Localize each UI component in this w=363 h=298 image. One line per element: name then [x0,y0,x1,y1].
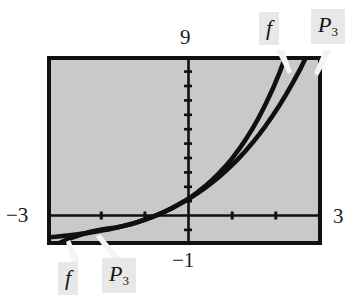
y-axis-max-label: 9 [180,25,191,50]
curve-label-f-bottom: f [58,262,78,295]
curve-label-f-top: f [259,12,279,45]
curve-label-f-bottom-text: f [65,265,71,290]
y-axis-min-label: −3 [6,203,28,228]
x-axis-max-label: 3 [333,204,344,229]
curve-label-p3-top-base: P [318,12,331,37]
curve-label-p3-bottom: P3 [102,258,136,293]
x-axis-min-label: −1 [172,248,194,273]
curve-label-p3-bottom-base: P [109,261,122,286]
curve-label-p3-top-sub: 3 [331,24,338,39]
curve-label-f-top-text: f [266,15,272,40]
taylor-polynomial-figure: 9 −3 −1 3 f P3 f P3 [0,0,363,298]
curve-label-p3-bottom-sub: 3 [122,273,129,288]
curve-label-p3-top: P3 [311,9,345,44]
